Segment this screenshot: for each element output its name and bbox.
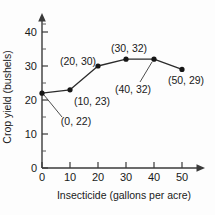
x-tick-label-20: 20 xyxy=(92,171,104,183)
y-axis-title: Crop yield (bushels) xyxy=(1,50,13,143)
point-label-0: (0, 22) xyxy=(61,115,91,127)
x-tick-label-40: 40 xyxy=(148,171,160,183)
y-tick-label-10: 10 xyxy=(25,128,37,140)
chart-container: 0 10 20 30 40 0 10 20 30 40 50 Insectici… xyxy=(0,0,215,215)
x-axis-ticks xyxy=(42,162,182,168)
x-tick-label-10: 10 xyxy=(64,171,76,183)
point-label-4: (40, 32) xyxy=(115,83,151,95)
y-axis-tick-labels: 0 10 20 30 40 xyxy=(25,26,37,174)
x-axis-arrow-icon xyxy=(197,164,206,172)
leader-line-point-4 xyxy=(140,62,152,82)
y-axis-major-ticks xyxy=(42,32,48,168)
x-tick-label-0: 0 xyxy=(39,171,45,183)
x-axis-title: Insecticide (gallons per acre) xyxy=(57,189,191,201)
point-label-2: (20, 30) xyxy=(60,55,96,67)
y-tick-label-40: 40 xyxy=(25,26,37,38)
data-point-0[interactable] xyxy=(39,91,44,96)
x-tick-label-50: 50 xyxy=(176,171,188,183)
x-axis-tick-labels: 0 10 20 30 40 50 xyxy=(39,171,188,183)
data-point-1[interactable] xyxy=(67,87,72,92)
y-tick-label-30: 30 xyxy=(25,60,37,72)
y-axis-arrow-icon xyxy=(38,13,46,22)
data-point-4[interactable] xyxy=(151,57,156,62)
y-tick-label-0: 0 xyxy=(31,162,37,174)
leader-line-point-0 xyxy=(44,95,62,117)
y-tick-label-20: 20 xyxy=(25,94,37,106)
crop-yield-line-chart: 0 10 20 30 40 0 10 20 30 40 50 Insectici… xyxy=(0,0,215,215)
data-point-3[interactable] xyxy=(123,57,128,62)
point-value-labels: (0, 22) (10, 23) (20, 30) (30, 32) (40, … xyxy=(60,42,204,127)
data-point-2[interactable] xyxy=(95,63,100,68)
x-tick-label-30: 30 xyxy=(120,171,132,183)
point-label-5: (50, 29) xyxy=(168,74,204,86)
data-point-5[interactable] xyxy=(179,67,184,72)
point-label-1: (10, 23) xyxy=(74,95,110,107)
point-label-3: (30, 32) xyxy=(111,42,147,54)
